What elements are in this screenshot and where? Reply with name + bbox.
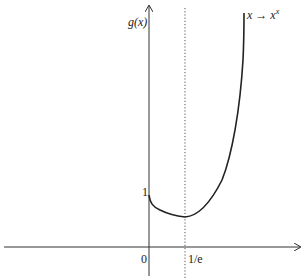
curve-label-base: x → x (247, 8, 276, 22)
chart-canvas (0, 0, 304, 280)
x-tick-inv-e: 1/e (188, 253, 203, 265)
x-tick-zero: 0 (141, 253, 147, 265)
curve-label-exponent: x (276, 7, 280, 16)
curve-x-pow-x (149, 13, 244, 217)
curve-label: x → xx (247, 8, 279, 21)
y-axis-label: g(x) (128, 16, 147, 28)
y-tick-one: 1 (142, 186, 148, 198)
